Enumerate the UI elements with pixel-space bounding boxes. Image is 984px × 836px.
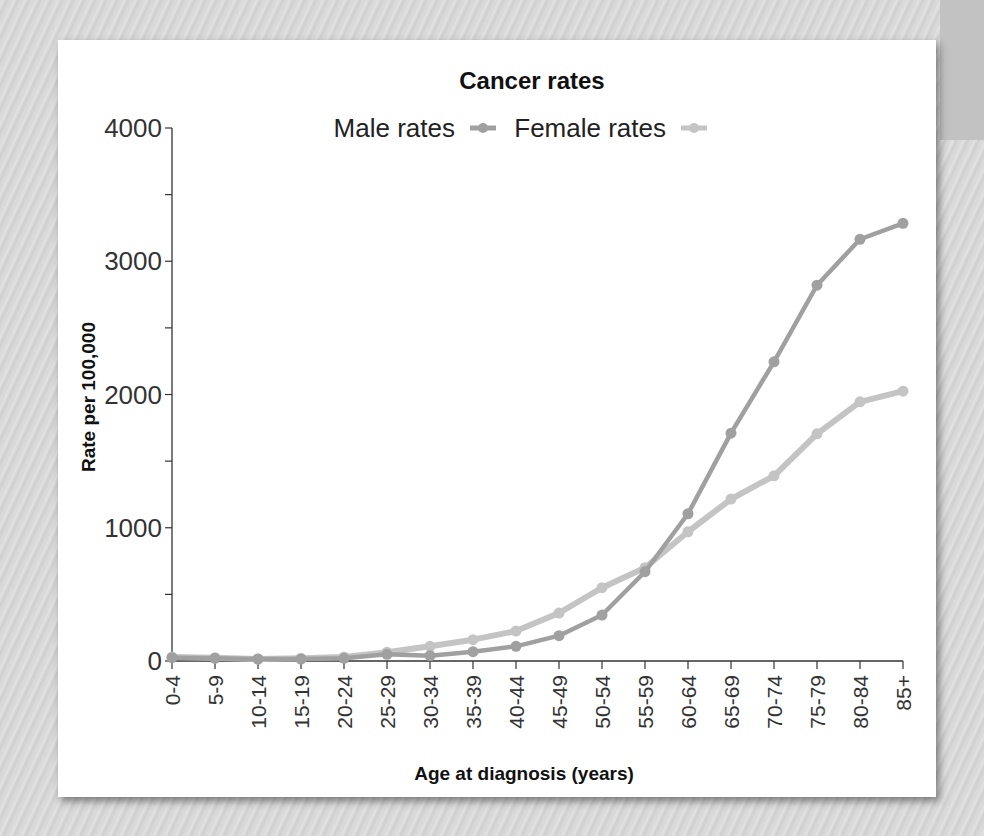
data-point	[468, 646, 479, 657]
x-tick-label: 0-4	[161, 675, 184, 706]
data-point	[726, 428, 737, 439]
y-tick-label: 4000	[104, 113, 162, 143]
data-point	[554, 630, 565, 641]
x-tick-label: 75-79	[806, 675, 829, 729]
x-tick-label: 5-9	[204, 675, 227, 705]
x-tick-label: 15-19	[290, 675, 313, 729]
series-male-rates	[167, 218, 909, 665]
y-tick-label: 1000	[104, 513, 162, 543]
line-chart: Cancer rates Male ratesFemale rates 0100…	[0, 0, 984, 836]
x-axis: 0-45-910-1415-1920-2425-2930-3435-3940-4…	[161, 661, 915, 729]
x-tick-label: 80-84	[849, 675, 872, 729]
x-tick-label: 70-74	[763, 675, 786, 729]
data-point	[210, 653, 221, 664]
legend-label: Female rates	[514, 113, 666, 143]
x-tick-label: 65-69	[720, 675, 743, 729]
data-point	[640, 566, 651, 577]
data-point	[554, 608, 565, 619]
data-point	[511, 641, 522, 652]
data-point	[511, 626, 522, 637]
data-point	[339, 653, 350, 664]
data-point	[855, 396, 866, 407]
y-axis-label: Rate per 100,000	[78, 322, 99, 472]
legend: Male ratesFemale rates	[334, 113, 707, 143]
series-layer	[167, 218, 909, 665]
data-point	[683, 526, 694, 537]
data-point	[683, 508, 694, 519]
x-tick-label: 55-59	[634, 675, 657, 729]
data-point	[253, 654, 264, 665]
x-tick-label: 30-34	[419, 675, 442, 729]
y-tick-label: 3000	[104, 246, 162, 276]
data-point	[898, 218, 909, 229]
x-tick-label: 40-44	[505, 675, 528, 729]
data-point	[898, 386, 909, 397]
x-tick-label: 85+	[892, 675, 915, 711]
x-tick-label: 60-64	[677, 675, 700, 729]
data-point	[597, 610, 608, 621]
data-point	[425, 650, 436, 661]
data-point	[296, 654, 307, 665]
data-point	[812, 280, 823, 291]
y-tick-label: 0	[148, 646, 162, 676]
data-point	[382, 649, 393, 660]
x-tick-label: 45-49	[548, 675, 571, 729]
x-axis-label: Age at diagnosis (years)	[414, 763, 634, 784]
data-point	[769, 356, 780, 367]
data-point	[167, 652, 178, 663]
x-tick-label: 20-24	[333, 675, 356, 729]
x-tick-label: 25-29	[376, 675, 399, 729]
y-tick-label: 2000	[104, 380, 162, 410]
data-point	[812, 428, 823, 439]
x-tick-label: 35-39	[462, 675, 485, 729]
y-axis: 01000200030004000	[104, 113, 172, 676]
data-point	[597, 582, 608, 593]
x-tick-label: 50-54	[591, 675, 614, 729]
legend-label: Male rates	[334, 113, 455, 143]
data-point	[726, 494, 737, 505]
data-point	[468, 634, 479, 645]
x-tick-label: 10-14	[247, 675, 270, 729]
data-point	[855, 234, 866, 245]
series-female-rates	[167, 386, 909, 665]
legend-line-marker-icon	[470, 123, 496, 133]
chart-title: Cancer rates	[459, 67, 604, 94]
legend-line-marker-icon	[681, 123, 707, 133]
data-point	[769, 470, 780, 481]
